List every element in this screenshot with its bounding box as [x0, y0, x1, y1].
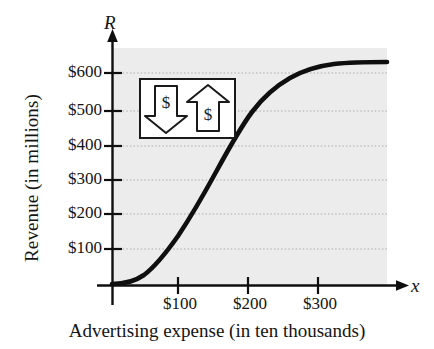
revenue-advertising-figure: $ $ $600 $500 $400 $300 $200 $100 $100 $… [0, 0, 434, 349]
x-axis-variable-label: x [411, 275, 419, 297]
x-tick-label-200: $200 [210, 294, 290, 314]
x-tick-label-300: $300 [280, 294, 360, 314]
y-axis-title: Revenue (in millions) [21, 63, 43, 293]
y-axis-variable-label: R [104, 12, 116, 34]
x-tick-label-group: $100 $200 $300 [0, 0, 434, 349]
x-axis-caption: Advertising expense (in ten thousands) [0, 320, 434, 342]
x-tick-label-100: $100 [140, 294, 220, 314]
